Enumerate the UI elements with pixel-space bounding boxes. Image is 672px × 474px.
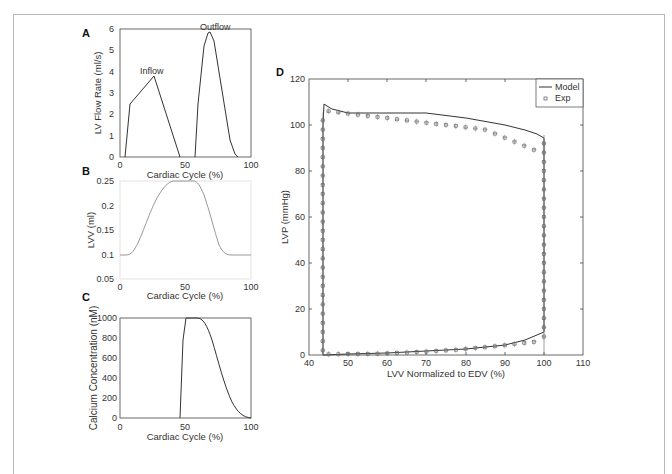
- svg-text:0.1: 0.1: [101, 250, 114, 260]
- svg-text:100: 100: [290, 120, 305, 130]
- svg-text:60: 60: [382, 358, 392, 368]
- svg-text:40: 40: [295, 258, 305, 268]
- panel-d-xticks: 40 50 60 70 80 90 100 110: [304, 358, 590, 368]
- panel-c-xlabel: Cardiac Cycle (%): [147, 431, 224, 442]
- panel-a-inflow-line: [125, 76, 180, 157]
- svg-text:120: 120: [290, 74, 305, 84]
- svg-text:0: 0: [117, 282, 122, 292]
- panel-d-label: D: [276, 66, 284, 78]
- svg-text:20: 20: [295, 304, 305, 314]
- panel-c-label: C: [82, 291, 90, 303]
- svg-text:200: 200: [102, 393, 117, 403]
- panel-a-yticks: 0 1 2 3 4 5 6: [109, 24, 114, 162]
- panel-b-yticks: 0.05 0.1 0.15 0.2 0.25: [96, 176, 114, 284]
- panel-a-inflow-annotation: Inflow: [140, 66, 164, 76]
- svg-text:600: 600: [102, 353, 117, 363]
- panel-d-exp-marker-set: [320, 108, 546, 357]
- svg-text:90: 90: [500, 358, 510, 368]
- svg-text:400: 400: [102, 373, 117, 383]
- panel-d-exp-markers: [323, 112, 544, 355]
- panel-a-ylabel: LV Flow Rate (ml/s): [92, 52, 103, 135]
- panel-a-outflow-line: [195, 32, 238, 157]
- svg-text:3: 3: [109, 88, 114, 98]
- panel-b: B 0.05 0.1 0.15 0.2 0.25 0 50 100 Cardia…: [82, 165, 259, 301]
- svg-text:100: 100: [536, 358, 551, 368]
- svg-text:1: 1: [109, 131, 114, 141]
- panel-b-label: B: [82, 165, 90, 177]
- panel-d-xlabel: LVV Normalized to EDV (%): [387, 368, 505, 379]
- svg-text:0.05: 0.05: [96, 274, 114, 284]
- svg-text:4: 4: [109, 67, 114, 77]
- panel-d: D 0 20 40 60 80 100 120 40: [276, 66, 590, 379]
- svg-text:40: 40: [304, 358, 314, 368]
- panel-c-calcium-line: [180, 318, 251, 418]
- panel-d-ylabel: LVP (mmHg): [279, 190, 290, 244]
- svg-text:0.15: 0.15: [96, 225, 114, 235]
- panel-a-outflow-annotation: Outflow: [200, 22, 231, 32]
- svg-text:100: 100: [243, 160, 258, 170]
- panel-d-yticks: 0 20 40 60 80 100 120: [290, 74, 305, 360]
- panel-b-ylabel: LVV (ml): [85, 212, 96, 248]
- legend-exp-label: Exp: [555, 93, 571, 103]
- panel-a-xlabel: Cardiac Cycle (%): [147, 169, 224, 180]
- panel-b-xlabel: Cardiac Cycle (%): [147, 290, 224, 301]
- svg-text:5: 5: [109, 45, 114, 55]
- panel-a-label: A: [82, 27, 90, 39]
- svg-text:50: 50: [343, 358, 353, 368]
- svg-text:100: 100: [243, 422, 258, 432]
- panel-d-model-line: [323, 104, 544, 355]
- panel-c-yticks: 0 200 400 600 800 1000: [97, 313, 117, 423]
- svg-text:0: 0: [117, 160, 122, 170]
- svg-text:6: 6: [109, 24, 114, 34]
- svg-text:0: 0: [112, 413, 117, 423]
- panel-c-axes: [120, 318, 251, 418]
- svg-text:0.25: 0.25: [96, 176, 114, 186]
- panel-c: C 0 200 400 600 800 1000 0 50 100 Cardia…: [82, 291, 259, 442]
- legend-model-label: Model: [555, 82, 580, 92]
- svg-text:70: 70: [421, 358, 431, 368]
- svg-text:0: 0: [109, 152, 114, 162]
- svg-text:60: 60: [295, 212, 305, 222]
- svg-text:0: 0: [117, 422, 122, 432]
- svg-text:110: 110: [576, 358, 590, 368]
- panel-a: A 0 1 2 3 4 5 6 0 50 100 Cardiac Cycle (…: [82, 22, 259, 180]
- svg-text:80: 80: [461, 358, 471, 368]
- svg-text:2: 2: [109, 109, 114, 119]
- panel-b-axes: [120, 181, 251, 279]
- svg-text:800: 800: [102, 333, 117, 343]
- svg-text:100: 100: [243, 282, 258, 292]
- svg-text:1000: 1000: [97, 313, 117, 323]
- svg-text:80: 80: [295, 166, 305, 176]
- panel-c-ylabel: Calcium Concentration (nM): [88, 306, 99, 431]
- svg-text:0.2: 0.2: [101, 201, 114, 211]
- panel-b-lvv-line: [120, 181, 251, 255]
- panel-d-legend: Model Exp: [536, 79, 583, 107]
